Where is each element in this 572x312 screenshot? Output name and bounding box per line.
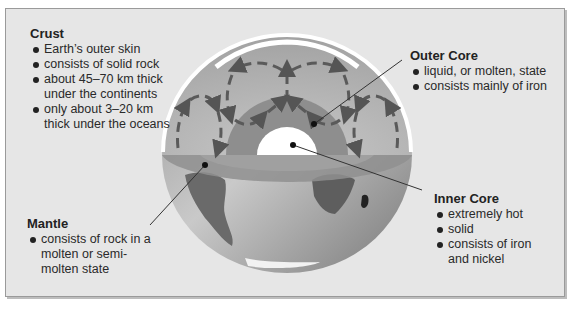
crust-bullets: Earth’s outer skin consists of solid roc… [30, 42, 180, 132]
mantle-title: Mantle [27, 216, 157, 231]
crust-title: Crust [30, 26, 180, 41]
bullet-item: solid [434, 222, 554, 237]
bullet-item: Earth’s outer skin [30, 42, 180, 57]
outer-core-bullets: liquid, or molten, state consists mainly… [410, 64, 560, 94]
bullet-item: consists of iron and nickel [434, 237, 554, 267]
bullet-item: liquid, or molten, state [410, 64, 560, 79]
bullet-item: only about 3–20 km thick under the ocean… [30, 102, 180, 132]
bullet-item: about 45–70 km thick under the continent… [30, 72, 180, 102]
bullet-item: consists of solid rock [30, 57, 180, 72]
bullet-item: consists mainly of iron [410, 79, 560, 94]
mantle-label: Mantle consists of rock in a molten or s… [27, 216, 157, 277]
inner-core-title: Inner Core [434, 191, 554, 206]
inner-core-label: Inner Core extremely hot solid consists … [434, 191, 554, 267]
bullet-item: extremely hot [434, 207, 554, 222]
mantle-bullets: consists of rock in a molten or semi-mol… [27, 232, 157, 277]
inner-core-bullets: extremely hot solid consists of iron and… [434, 207, 554, 267]
outer-core-label: Outer Core liquid, or molten, state cons… [410, 48, 560, 94]
bullet-item: consists of rock in a molten or semi-mol… [27, 232, 157, 277]
outer-core-title: Outer Core [410, 48, 560, 63]
crust-label: Crust Earth’s outer skin consists of sol… [30, 26, 180, 132]
